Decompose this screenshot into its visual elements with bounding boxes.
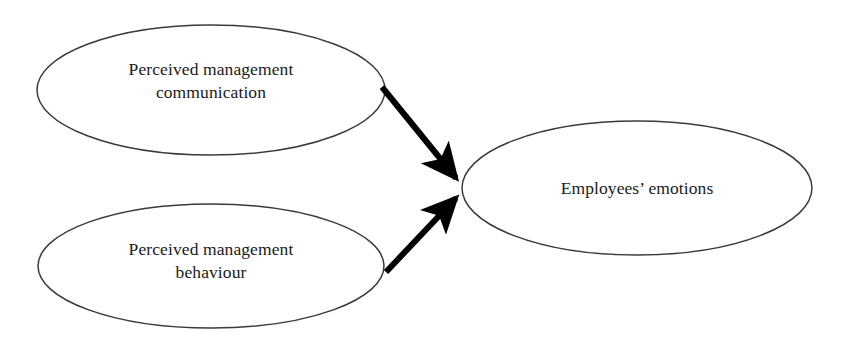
node-ellipse-perceived-management-behaviour [38,204,384,328]
node-ellipse-perceived-management-communication [37,25,385,155]
node-ellipse-employees-emotions [462,121,812,255]
arrow-behaviour-to-emotions [386,198,456,272]
conceptual-model-diagram: Perceived management communication Perce… [0,0,847,351]
arrow-communication-to-emotions [382,87,456,178]
diagram-canvas [0,0,847,351]
